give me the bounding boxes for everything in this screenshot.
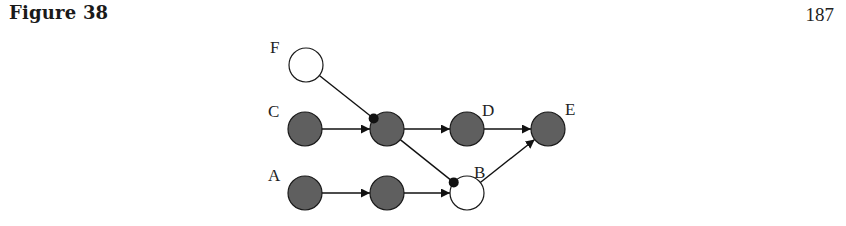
edge-B-E [480,140,534,183]
node-c [288,112,322,146]
inhibit-dot-F-M1 [369,113,379,123]
node-label-f: F [270,38,279,57]
node-f [289,48,323,82]
node-m2 [370,176,404,210]
inhibit-dot-M1-B [449,177,459,187]
edge-M1-B [400,140,453,183]
directed-graph-diagram: FCDEAB [0,0,846,226]
node-label-b: B [474,163,485,182]
node-label-d: D [482,101,494,120]
edge-F-M1 [319,76,373,119]
node-a [288,176,322,210]
node-e [531,112,565,146]
node-label-a: A [268,166,281,185]
edges-group [319,76,534,193]
node-d [450,112,484,146]
node-label-e: E [565,100,575,119]
node-label-c: C [268,102,279,121]
